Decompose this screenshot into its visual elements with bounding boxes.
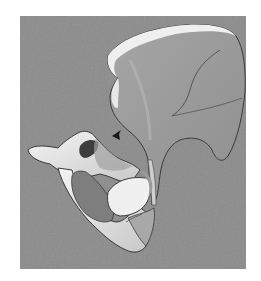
hip-bone-drawing (20, 16, 246, 269)
illustration-plate (20, 16, 246, 269)
